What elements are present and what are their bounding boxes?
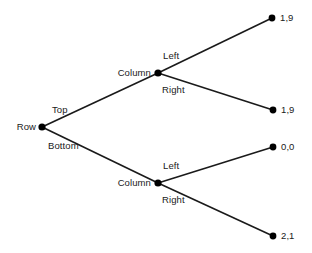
branch-label-upper-right: Right bbox=[162, 84, 185, 95]
node-root bbox=[38, 123, 45, 130]
branch-label-top: Top bbox=[52, 104, 68, 115]
terminal-node-1 bbox=[269, 15, 276, 22]
edge-upper-left bbox=[158, 18, 272, 73]
payoff-label-4: 2,1 bbox=[281, 230, 295, 241]
payoff-label-1: 1,9 bbox=[280, 12, 294, 23]
terminal-node-4 bbox=[270, 233, 277, 240]
terminal-node-2 bbox=[270, 107, 277, 114]
node-column-upper bbox=[154, 69, 161, 76]
branch-label-upper-left: Left bbox=[163, 50, 179, 61]
game-tree-figure: Row Column Column Top Bottom Left Right … bbox=[0, 0, 312, 253]
edge-root-top bbox=[42, 73, 158, 127]
branch-label-bottom: Bottom bbox=[48, 140, 79, 151]
node-label-row: Row bbox=[6, 121, 36, 132]
payoff-label-2: 1,9 bbox=[281, 104, 295, 115]
branch-label-lower-left: Left bbox=[163, 160, 179, 171]
edge-lower-right bbox=[158, 183, 273, 236]
payoff-label-3: 0,0 bbox=[281, 141, 295, 152]
node-label-column-lower: Column bbox=[103, 177, 151, 188]
branch-label-lower-right: Right bbox=[162, 194, 185, 205]
edge-root-bottom bbox=[42, 127, 158, 183]
node-label-column-upper: Column bbox=[103, 67, 151, 78]
node-column-lower bbox=[154, 179, 161, 186]
terminal-node-3 bbox=[270, 144, 277, 151]
game-tree-canvas bbox=[0, 0, 312, 253]
